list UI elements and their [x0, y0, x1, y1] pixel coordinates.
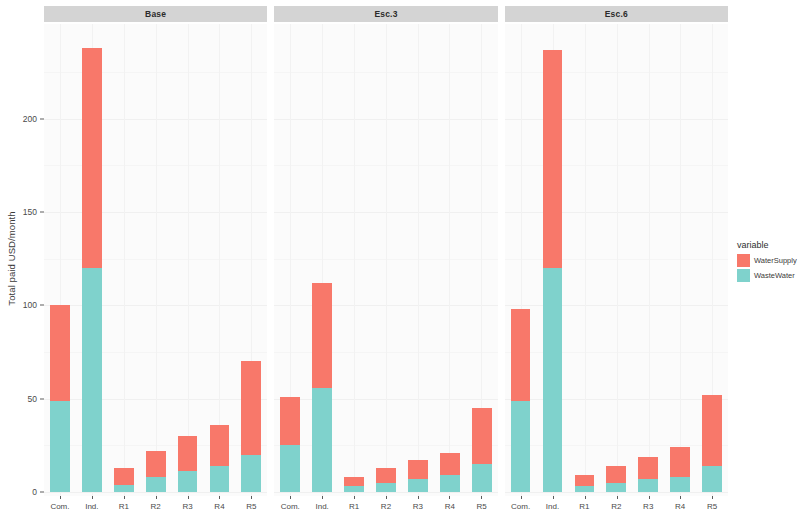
- x-tick-mark: [60, 496, 61, 499]
- x-tick-mark: [521, 496, 522, 499]
- bar-segment-wastewater[interactable]: [82, 268, 102, 492]
- bar-segment-wastewater[interactable]: [702, 466, 722, 492]
- bar-segment-wastewater[interactable]: [511, 401, 531, 492]
- bar-segment-wastewater[interactable]: [440, 475, 460, 492]
- facet-strip: Base: [44, 6, 267, 22]
- facet-strip-label: Esc.3: [374, 9, 397, 19]
- x-tick-label: Ind.: [85, 502, 98, 511]
- facet-strip-label: Base: [145, 9, 166, 19]
- stacked-bar[interactable]: [82, 48, 102, 492]
- x-tick-label: Ind.: [546, 502, 559, 511]
- bar-segment-wastewater[interactable]: [543, 268, 563, 492]
- gridline-vertical: [680, 24, 681, 496]
- plot-area: [274, 24, 497, 496]
- bar-segment-watersupply[interactable]: [543, 50, 563, 268]
- bar-segment-watersupply[interactable]: [312, 283, 332, 387]
- bar-segment-watersupply[interactable]: [146, 451, 166, 477]
- stacked-bar[interactable]: [280, 397, 300, 492]
- x-tick-mark: [386, 496, 387, 499]
- legend-item-watersupply[interactable]: WaterSupply: [737, 254, 807, 267]
- stacked-bar[interactable]: [210, 425, 230, 492]
- x-tick-label: R1: [579, 502, 589, 511]
- bar-segment-wastewater[interactable]: [575, 486, 595, 492]
- legend-item-wastewater[interactable]: WasteWater: [737, 269, 807, 282]
- bar-segment-watersupply[interactable]: [50, 305, 70, 400]
- gridline-vertical: [354, 24, 355, 496]
- gridline-vertical: [156, 24, 157, 496]
- bar-segment-wastewater[interactable]: [376, 483, 396, 492]
- stacked-bar[interactable]: [376, 468, 396, 492]
- gridline-vertical: [649, 24, 650, 496]
- legend: variable WaterSupply WasteWater: [737, 240, 807, 284]
- y-tick-label: 50: [28, 394, 37, 404]
- x-tick-label: R1: [119, 502, 129, 511]
- bar-segment-watersupply[interactable]: [606, 466, 626, 483]
- legend-swatch-watersupply: [737, 254, 750, 267]
- bar-segment-wastewater[interactable]: [408, 479, 428, 492]
- x-tick-label: R5: [477, 502, 487, 511]
- bar-segment-watersupply[interactable]: [210, 425, 230, 466]
- stacked-bar[interactable]: [638, 457, 658, 492]
- bar-segment-watersupply[interactable]: [114, 468, 134, 485]
- legend-label-wastewater: WasteWater: [754, 271, 795, 280]
- bar-segment-watersupply[interactable]: [344, 477, 364, 486]
- stacked-bar[interactable]: [408, 460, 428, 492]
- stacked-bar[interactable]: [670, 447, 690, 492]
- bar-segment-watersupply[interactable]: [280, 397, 300, 446]
- bar-segment-wastewater[interactable]: [114, 485, 134, 492]
- faceted-stacked-bar-chart: Total paid USD/month 050100150200 BaseCo…: [0, 0, 810, 517]
- stacked-bar[interactable]: [146, 451, 166, 492]
- bar-segment-wastewater[interactable]: [670, 477, 690, 492]
- plot-area: [505, 24, 728, 496]
- stacked-bar[interactable]: [241, 361, 261, 492]
- bar-segment-watersupply[interactable]: [178, 436, 198, 471]
- bar-segment-watersupply[interactable]: [575, 475, 595, 486]
- bar-segment-wastewater[interactable]: [241, 455, 261, 492]
- stacked-bar[interactable]: [440, 453, 460, 492]
- x-tick-mark: [156, 496, 157, 499]
- bar-segment-wastewater[interactable]: [146, 477, 166, 492]
- stacked-bar[interactable]: [114, 468, 134, 492]
- bar-segment-wastewater[interactable]: [344, 486, 364, 492]
- stacked-bar[interactable]: [344, 477, 364, 492]
- x-tick-label: R4: [675, 502, 685, 511]
- bar-segment-wastewater[interactable]: [606, 483, 626, 492]
- bar-segment-wastewater[interactable]: [312, 388, 332, 492]
- stacked-bar[interactable]: [543, 50, 563, 492]
- bar-segment-wastewater[interactable]: [472, 464, 492, 492]
- x-tick-label: R5: [246, 502, 256, 511]
- facet-strip: Esc.3: [274, 6, 497, 22]
- bar-segment-watersupply[interactable]: [440, 453, 460, 475]
- bar-segment-watersupply[interactable]: [511, 309, 531, 400]
- bar-segment-watersupply[interactable]: [241, 361, 261, 454]
- stacked-bar[interactable]: [472, 408, 492, 492]
- stacked-bar[interactable]: [178, 436, 198, 492]
- bar-segment-wastewater[interactable]: [280, 445, 300, 492]
- bar-segment-wastewater[interactable]: [50, 401, 70, 492]
- stacked-bar[interactable]: [511, 309, 531, 492]
- bar-segment-wastewater[interactable]: [178, 471, 198, 492]
- x-tick-mark: [481, 496, 482, 499]
- x-tick-mark: [617, 496, 618, 499]
- bar-segment-watersupply[interactable]: [376, 468, 396, 483]
- stacked-bar[interactable]: [606, 466, 626, 492]
- x-tick-label: R3: [413, 502, 423, 511]
- x-axis: Com.Ind.R1R2R3R4R5: [505, 496, 728, 517]
- legend-label-watersupply: WaterSupply: [754, 256, 797, 265]
- plot-area: [44, 24, 267, 496]
- bar-segment-watersupply[interactable]: [472, 408, 492, 464]
- bar-segment-watersupply[interactable]: [638, 457, 658, 479]
- stacked-bar[interactable]: [312, 283, 332, 492]
- bar-segment-watersupply[interactable]: [408, 460, 428, 479]
- bar-segment-watersupply[interactable]: [670, 447, 690, 477]
- stacked-bar[interactable]: [702, 395, 722, 492]
- stacked-bar[interactable]: [50, 305, 70, 492]
- bar-segment-watersupply[interactable]: [702, 395, 722, 466]
- y-tick-label: 200: [23, 114, 37, 124]
- bar-segment-wastewater[interactable]: [210, 466, 230, 492]
- stacked-bar[interactable]: [575, 475, 595, 492]
- x-tick-mark: [251, 496, 252, 499]
- y-tick-label: 150: [23, 207, 37, 217]
- bar-segment-watersupply[interactable]: [82, 48, 102, 268]
- bar-segment-wastewater[interactable]: [638, 479, 658, 492]
